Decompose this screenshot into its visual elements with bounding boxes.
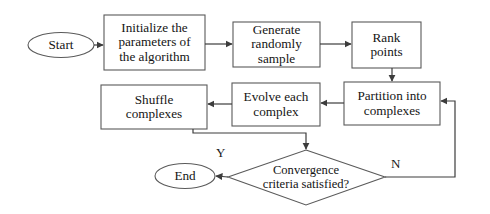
edge-convergence-to-end	[216, 176, 228, 177]
initialize-node-shape	[104, 15, 205, 70]
convergence-node-shape	[228, 150, 385, 205]
edge-label-yes: Y	[216, 145, 225, 161]
edge-label-no: N	[391, 156, 400, 172]
end-node-shape	[155, 164, 215, 189]
flowchart-canvas: Start Initialize the parameters of the a…	[0, 0, 490, 214]
start-node-shape	[28, 33, 94, 58]
generate-node-shape	[233, 22, 320, 67]
shuffle-node-shape	[101, 85, 207, 129]
partition-node-shape	[344, 82, 440, 125]
flowchart-connectors	[0, 0, 490, 214]
evolve-node-shape	[232, 83, 320, 126]
rank-node-shape	[352, 22, 421, 68]
edge-shuffle-to-convergence	[193, 129, 306, 149]
